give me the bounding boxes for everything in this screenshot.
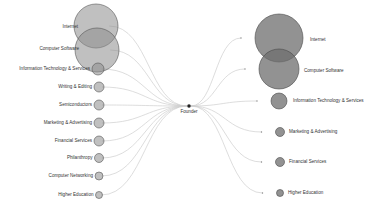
bubble-left-higher-education[interactable] [96, 192, 103, 199]
bubble-right-information-technology-and-services[interactable] [271, 93, 287, 109]
label-right-computer-software: Computer Software [304, 68, 344, 74]
label-left-higher-education: Higher Education [58, 192, 93, 198]
edge-right-internet [191, 38, 241, 106]
bubble-right-computer-software[interactable] [259, 49, 299, 89]
label-right-marketing-and-advertising: Marketing & Advertising [289, 129, 337, 135]
label-left-philanthropy: Philanthropy [67, 155, 93, 161]
label-right-higher-education: Higher Education [288, 190, 323, 196]
bubble-right-financial-services[interactable] [276, 158, 285, 167]
bubble-right-marketing-and-advertising[interactable] [276, 128, 285, 137]
edge-right-computer-software [191, 69, 245, 106]
edge-left-computer-networking [101, 106, 187, 176]
edge-end-dot [262, 192, 263, 193]
edge-left-financial-services [102, 106, 187, 141]
label-left-semiconductors: Semiconductors [59, 102, 92, 108]
bubble-left-financial-services[interactable] [94, 136, 104, 146]
right-edges [191, 37, 263, 193]
label-left-information-technology-and-services: Information Technology & Services [19, 66, 90, 72]
edge-end-dot [240, 37, 241, 38]
label-left-marketing-and-advertising: Marketing & Advertising [44, 120, 92, 126]
label-left-internet: Internet [62, 24, 78, 30]
edge-left-internet [109, 26, 187, 106]
edge-right-higher-education [191, 106, 263, 193]
edge-end-dot [261, 131, 262, 132]
label-left-financial-services: Financial Services [55, 138, 92, 144]
bubble-left-marketing-and-advertising[interactable] [94, 118, 104, 128]
founder-node[interactable] [187, 104, 191, 108]
label-right-financial-services: Financial Services [289, 159, 326, 165]
edge-end-dot [256, 100, 257, 101]
founder-label: Founder [177, 109, 201, 115]
edge-right-financial-services [191, 106, 262, 162]
edge-end-dot [261, 161, 262, 162]
label-right-internet: Internet [310, 37, 326, 43]
label-right-information-technology-and-services: Information Technology & Services [293, 98, 364, 104]
bubble-left-philanthropy[interactable] [95, 154, 104, 163]
edge-left-higher-education [101, 106, 187, 195]
bubble-right-higher-education[interactable] [277, 190, 284, 197]
flow-diagram [0, 0, 378, 214]
bubble-left-information-technology-and-services[interactable] [92, 63, 104, 75]
edge-right-marketing-and-advertising [191, 106, 262, 132]
edge-left-philanthropy [102, 106, 187, 158]
edge-end-dot [244, 68, 245, 69]
label-left-computer-networking: Computer Networking [49, 173, 93, 179]
bubble-left-writing-and-editing[interactable] [94, 82, 104, 92]
bubble-left-semiconductors[interactable] [94, 100, 104, 110]
label-left-computer-software: Computer Software [39, 46, 79, 52]
right-bubbles [255, 14, 303, 197]
bubble-left-computer-networking[interactable] [95, 172, 103, 180]
label-left-writing-and-editing: Writing & Editing [58, 84, 92, 90]
